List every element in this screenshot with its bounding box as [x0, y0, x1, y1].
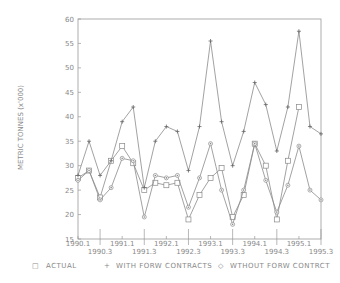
diamond-marker-dot [298, 145, 300, 147]
square-marker [120, 144, 125, 149]
diamond-marker-dot [143, 216, 145, 218]
plus-marker [264, 103, 268, 107]
square-marker [197, 193, 202, 198]
plus-marker [175, 129, 179, 133]
series-with-forw-contracts [76, 29, 323, 189]
line-chart: 15202530354045505560 1990.11990.31991.11… [0, 0, 340, 283]
plus-marker [297, 29, 301, 33]
legend-symbol-actual: □ [32, 262, 39, 270]
diamond-marker-dot [199, 177, 201, 179]
x-tick-label: 1990.3 [88, 248, 113, 256]
square-marker [285, 158, 290, 163]
plus-marker [286, 105, 290, 109]
plus-marker [209, 39, 213, 43]
y-tick-label: 40 [65, 113, 74, 121]
y-tick-label: 20 [65, 211, 74, 219]
series-group [76, 29, 324, 226]
diamond-marker-dot [110, 187, 112, 189]
x-tick-label: 1993.1 [198, 240, 223, 248]
x-tick-label: 1992.1 [154, 240, 179, 248]
diamond-marker-dot [88, 170, 90, 172]
diamond-marker-dot [188, 206, 190, 208]
square-marker [296, 105, 301, 110]
diamond-marker-dot [265, 180, 267, 182]
x-tick-label: 1992.3 [176, 248, 201, 256]
diamond-marker-dot [309, 189, 311, 191]
diamond-marker-dot [177, 175, 179, 177]
diamond-marker-dot [232, 224, 234, 226]
diamond-marker-dot [254, 143, 256, 145]
legend-label-without-forw: WTHOUT FORW CONTRCT [230, 262, 330, 270]
square-marker [186, 217, 191, 222]
y-tick-label: 60 [65, 16, 74, 24]
y-tick-label: 50 [65, 64, 74, 72]
diamond-marker-dot [166, 177, 168, 179]
plus-marker [186, 169, 190, 173]
plus-marker [231, 164, 235, 168]
legend-symbol-without-forw: ◇ [218, 262, 224, 270]
y-axis-label: METRIC TONNES (x'000) [17, 85, 25, 170]
x-tick-label: 1993.3 [220, 248, 245, 256]
square-marker [164, 183, 169, 188]
diamond-marker-dot [210, 143, 212, 145]
diamond-marker-dot [221, 189, 223, 191]
legend-label-with-forw: WITH FORW CONTRACTS [116, 262, 212, 270]
diamond-marker-dot [243, 189, 245, 191]
y-tick-label: 25 [65, 187, 74, 195]
x-tick-label: 1990.1 [66, 240, 91, 248]
plot-frame [78, 19, 321, 239]
legend-label-actual: ACTUAL [46, 262, 77, 270]
x-axis: 1990.11990.31991.11991.31992.11992.31993… [66, 229, 334, 256]
diamond-marker-dot [287, 184, 289, 186]
square-marker [263, 163, 268, 168]
plus-marker [253, 81, 257, 85]
plus-marker [87, 139, 91, 143]
diamond-marker-dot [132, 160, 134, 162]
square-marker [208, 175, 213, 180]
x-tick-label: 1991.3 [132, 248, 157, 256]
y-tick-label: 30 [65, 162, 74, 170]
x-tick-label: 1994.3 [265, 248, 290, 256]
y-tick-label: 55 [65, 40, 74, 48]
legend: □ ACTUAL + WITH FORW CONTRACTS ◇ WTHOUT … [32, 262, 330, 270]
square-marker [274, 217, 279, 222]
x-tick-label: 1995.3 [309, 248, 334, 256]
x-tick-label: 1995.1 [287, 240, 312, 248]
plus-marker [198, 125, 202, 129]
diamond-marker-dot [276, 211, 278, 213]
diamond-marker-dot [99, 199, 101, 201]
diamond-marker-dot [77, 180, 79, 182]
x-tick-label: 1991.1 [110, 240, 135, 248]
square-marker [219, 166, 224, 171]
y-axis: 15202530354045505560 [65, 16, 81, 244]
x-tick-label: 1994.1 [242, 240, 267, 248]
plus-marker [275, 149, 279, 153]
diamond-marker-dot [121, 158, 123, 160]
y-tick-label: 45 [65, 89, 74, 97]
plus-marker [242, 129, 246, 133]
plus-marker [220, 120, 224, 124]
legend-symbol-with-forw: + [104, 262, 110, 270]
diamond-marker-dot [320, 199, 322, 201]
y-tick-label: 35 [65, 138, 74, 146]
diamond-marker-dot [155, 175, 157, 177]
